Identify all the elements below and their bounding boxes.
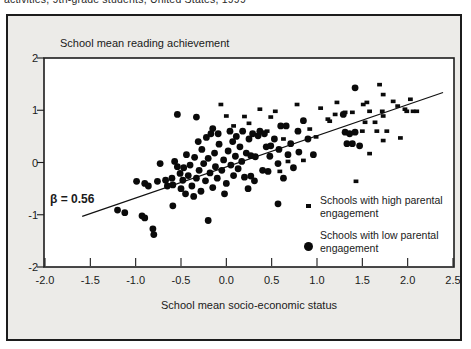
data-point-circle <box>200 160 207 167</box>
data-point-circle <box>185 172 192 179</box>
data-point-square <box>231 124 236 128</box>
y-axis-chart-title: School mean reading achievement <box>60 37 229 49</box>
data-point-circle <box>169 175 176 182</box>
data-point-circle <box>133 178 140 185</box>
data-point-circle <box>265 168 272 175</box>
data-point-circle <box>237 143 244 150</box>
data-point-circle <box>179 177 186 184</box>
y-tick-label: -1 <box>8 209 38 221</box>
x-tick-label: -2.0 <box>25 274 65 286</box>
figure-page: { "page": { "caption_clipped": "activiti… <box>0 0 471 349</box>
data-point-circle <box>205 155 212 162</box>
data-point-circle <box>238 158 245 165</box>
data-point-square <box>360 129 365 133</box>
data-point-circle <box>177 170 184 177</box>
data-point-square <box>277 170 282 174</box>
data-point-circle <box>195 138 202 145</box>
data-point-circle <box>239 128 246 135</box>
data-point-circle <box>196 167 203 174</box>
data-point-square <box>381 139 386 143</box>
data-point-circle <box>212 163 219 170</box>
data-point-square <box>314 135 319 139</box>
data-point-circle <box>191 154 198 161</box>
data-point-circle <box>241 174 248 181</box>
data-point-circle <box>295 128 302 135</box>
data-point-circle <box>209 184 216 191</box>
legend-marker-box <box>302 229 320 255</box>
data-point-square <box>363 120 368 124</box>
legend-label-high-line1: Schools with high parental <box>320 194 443 207</box>
data-point-circle <box>157 160 164 167</box>
data-point-square <box>374 129 379 133</box>
x-tick-label: -1.5 <box>70 274 110 286</box>
data-point-circle <box>233 133 240 140</box>
data-point-square <box>354 180 359 184</box>
data-point-circle <box>187 162 194 169</box>
data-point-circle <box>198 146 205 153</box>
legend: Schools with high parental engagement Sc… <box>302 194 456 264</box>
data-point-circle <box>275 160 282 167</box>
x-tick-label: 0.0 <box>206 274 246 286</box>
data-point-circle <box>188 183 195 190</box>
data-point-square <box>381 114 386 118</box>
data-point-circle <box>174 163 181 170</box>
data-point-circle <box>202 177 209 184</box>
data-point-circle <box>266 153 273 160</box>
data-point-circle <box>169 182 176 189</box>
data-point-square <box>414 109 419 113</box>
x-tick-label: -0.5 <box>161 274 201 286</box>
data-point-square <box>273 109 278 113</box>
data-point-circle <box>162 177 169 184</box>
data-point-circle <box>215 130 222 137</box>
data-point-square <box>327 119 332 123</box>
data-point-square <box>286 160 291 164</box>
data-point-circle <box>221 190 228 197</box>
legend-label-low-line2: engagement <box>320 242 438 255</box>
data-point-square <box>367 152 372 156</box>
y-tick-label: 0 <box>8 157 38 169</box>
data-point-circle <box>275 200 282 207</box>
legend-label-high: Schools with high parental engagement <box>320 194 443 220</box>
data-point-circle <box>352 129 359 136</box>
legend-label-low-line1: Schools with low parental <box>320 229 438 242</box>
data-point-circle <box>356 142 363 149</box>
data-point-square <box>307 127 312 131</box>
data-point-circle <box>193 114 200 121</box>
data-point-square <box>247 122 252 126</box>
data-point-square <box>408 97 413 101</box>
data-point-circle <box>235 165 242 172</box>
data-point-square <box>281 137 286 141</box>
data-point-circle <box>141 214 148 221</box>
data-point-circle <box>225 148 232 155</box>
data-point-circle <box>290 164 297 171</box>
data-point-circle <box>245 185 252 192</box>
x-tick-label: 1.5 <box>342 274 382 286</box>
x-tick-label: 2.0 <box>388 274 428 286</box>
beta-annotation: β = 0.56 <box>50 192 94 206</box>
x-tick-label: 0.5 <box>252 274 292 286</box>
x-tick-label: -1.0 <box>116 274 156 286</box>
data-point-circle <box>252 153 259 160</box>
data-point-circle <box>218 167 225 174</box>
data-point-circle <box>352 84 359 91</box>
data-point-square <box>295 103 300 107</box>
data-point-circle <box>145 183 152 190</box>
data-point-circle <box>169 202 176 209</box>
data-point-square <box>301 159 306 163</box>
data-point-square <box>268 115 273 119</box>
data-point-square <box>404 109 409 113</box>
data-point-circle <box>214 175 221 182</box>
data-point-circle <box>183 151 190 158</box>
data-point-circle <box>251 177 258 184</box>
data-point-square <box>333 113 338 117</box>
y-tick-label: 1 <box>8 104 38 116</box>
y-tick-label: 2 <box>8 52 38 64</box>
y-tick-label: -2 <box>8 261 38 273</box>
data-point-circle <box>205 217 212 224</box>
data-point-circle <box>193 175 200 182</box>
data-point-circle <box>295 149 302 156</box>
data-point-square <box>335 101 340 105</box>
data-point-square <box>398 136 403 140</box>
data-point-circle <box>230 172 237 179</box>
data-point-circle <box>174 111 181 118</box>
